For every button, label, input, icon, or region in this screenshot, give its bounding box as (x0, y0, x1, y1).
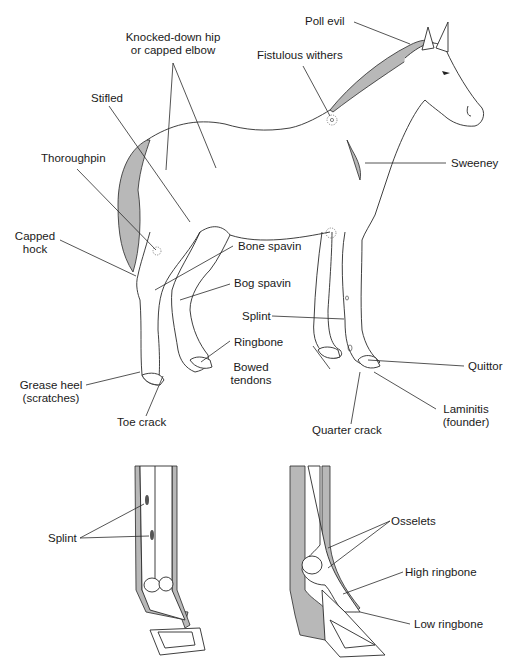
horse-hind-hoof-near (142, 373, 164, 385)
label-sweeney: Sweeney (451, 157, 498, 170)
label-poll-evil: Poll evil (305, 15, 345, 28)
horse-chest (362, 215, 375, 240)
fistulous-withers-mark (327, 115, 337, 125)
label-bog-spavin: Bog spavin (234, 277, 291, 290)
horse-hind-leg-near (137, 232, 200, 385)
sweeney-mark (347, 140, 361, 180)
horse-belly (200, 227, 330, 240)
label-knocked-down-hip: Knocked-down hip or capped elbow (118, 31, 228, 57)
label-capped-hock: Capped hock (10, 230, 60, 256)
inset-side-leg (290, 466, 410, 657)
label-ringbone: Ringbone (234, 336, 283, 349)
capped-elbow-mark (326, 228, 336, 238)
label-grease-heel-line2: (scratches) (14, 392, 88, 405)
label-bone-spavin: Bone spavin (238, 240, 301, 253)
horse-front-leg-near (342, 232, 380, 366)
label-capped-hock-line2: hock (10, 243, 60, 256)
label-osselets: Osselets (391, 515, 436, 528)
label-inset-splint: Splint (48, 532, 77, 545)
horse-ear-left (422, 27, 434, 50)
label-knocked-down-hip-line1: Knocked-down hip (118, 31, 228, 44)
inset-front-leg (80, 466, 205, 655)
splint-mark (346, 296, 349, 300)
label-laminitis-line2: (founder) (436, 416, 496, 429)
horse-back (147, 110, 330, 140)
label-laminitis: Laminitis (founder) (436, 403, 496, 429)
fistulous-withers-core (330, 118, 333, 121)
label-bowed-tendons-line1: Bowed (222, 361, 280, 374)
label-grease-heel: Grease heel (scratches) (14, 379, 88, 405)
horse-front-hoof-near (358, 356, 380, 368)
label-fistulous-withers: Fistulous withers (257, 49, 343, 62)
label-thoroughpin: Thoroughpin (41, 152, 106, 165)
label-quittor: Quittor (468, 360, 503, 373)
label-toe-crack: Toe crack (117, 416, 166, 429)
label-low-ringbone: Low ringbone (414, 618, 483, 631)
horse-ear-right (436, 22, 448, 52)
label-bowed-tendons: Bowed tendons (222, 361, 280, 387)
label-capped-hock-line1: Capped (10, 230, 60, 243)
label-splint: Splint (242, 310, 271, 323)
label-grease-heel-line1: Grease heel (14, 379, 88, 392)
label-bowed-tendons-line2: tendons (222, 374, 280, 387)
label-high-ringbone: High ringbone (405, 566, 477, 579)
label-stifled: Stifled (91, 92, 123, 105)
label-laminitis-line1: Laminitis (436, 403, 496, 416)
horse-tail (118, 140, 150, 272)
horse-front-leg-far (314, 232, 342, 358)
label-knocked-down-hip-line2: or capped elbow (118, 44, 228, 57)
label-quarter-crack: Quarter crack (312, 424, 382, 437)
horse-illustration (118, 22, 484, 385)
